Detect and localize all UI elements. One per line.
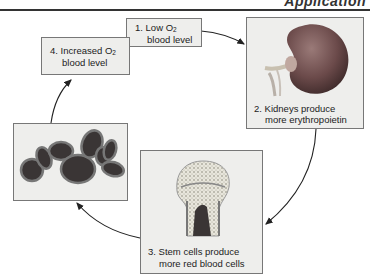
red-blood-cells-icon xyxy=(14,124,129,202)
step-4-line2: blood level xyxy=(62,57,107,68)
step-3-line2: more red blood cells xyxy=(159,258,245,269)
step-3-line1: 3. Stem cells produce xyxy=(148,246,239,257)
step-1-box: 1. Low O2 blood level xyxy=(126,18,202,47)
step-2-line1: 2. Kidneys produce xyxy=(254,103,335,114)
bone-marrow-icon xyxy=(141,151,264,241)
step-1-line2: blood level xyxy=(147,34,192,45)
step-2-box: 2. Kidneys produce more erythropoietin xyxy=(246,17,364,129)
kidney-icon xyxy=(247,18,365,98)
step-3-box: 3. Stem cells produce more red blood cel… xyxy=(140,150,263,274)
step-2-line2: more erythropoietin xyxy=(265,114,347,125)
red-blood-cells-box xyxy=(13,123,128,201)
step-4-box: 4. Increased O2 blood level xyxy=(41,37,130,75)
